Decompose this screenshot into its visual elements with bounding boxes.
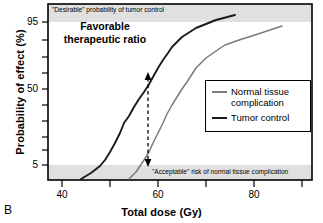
xtick-label-40: 40: [47, 189, 77, 200]
legend-swatch-tumor-control: [212, 117, 227, 119]
favorable-therapeutic-ratio-note: Favorable therapeutic ratio: [57, 20, 153, 45]
panel-label: B: [4, 203, 12, 217]
x-axis-ticks: [62, 180, 302, 187]
legend: Normal tissue complication Tumor control: [205, 80, 311, 132]
xtick-label-80: 80: [239, 189, 269, 200]
legend-swatch-normal-tissue: [212, 91, 227, 93]
legend-label-normal-tissue: Normal tissue complication: [231, 86, 289, 108]
therapeutic-ratio-arrow-icon: [145, 72, 152, 167]
xtick-label-60: 60: [143, 189, 173, 200]
x-axis-title: Total dose (Gy): [0, 206, 323, 218]
legend-item-normal-tissue-complication: Normal tissue complication: [212, 86, 289, 108]
figure-panel-b: 95 50 5 40 60 80 Total dose (Gy) Probabi…: [0, 0, 323, 223]
y-axis-ticks: [42, 22, 48, 165]
acceptable-band-label: "Acceptable" risk of normal tissue compl…: [152, 168, 288, 175]
legend-label-tumor-control: Tumor control: [231, 112, 289, 123]
y-axis-title: Probability of effect (%): [14, 12, 26, 172]
legend-item-tumor-control: Tumor control: [212, 112, 289, 123]
desirable-band-label: "Desirable" probability of tumor control: [52, 6, 164, 13]
